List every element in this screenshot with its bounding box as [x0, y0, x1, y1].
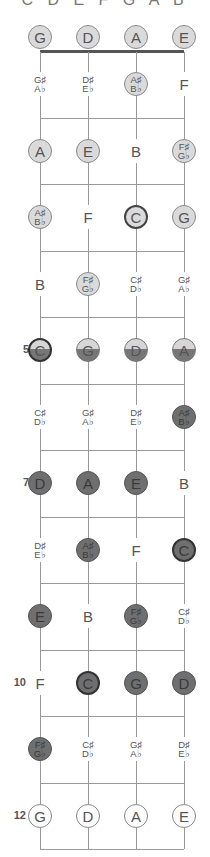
note-name: E: [179, 809, 189, 824]
note-flat-name: A♭: [34, 84, 45, 93]
note-marker: C: [76, 671, 100, 695]
note-name: D: [83, 809, 94, 824]
note-name: E: [179, 30, 189, 45]
note-marker: A♯B♭: [76, 538, 100, 562]
note-marker: G: [124, 671, 148, 695]
note-flat-name: E♭: [34, 550, 45, 559]
note-marker: E: [28, 604, 52, 628]
note-marker: F: [124, 538, 148, 562]
note-flat-name: G♭: [82, 284, 94, 293]
note-flat-name: D♭: [34, 417, 46, 426]
note-marker: F♯G♭: [28, 737, 52, 761]
note-marker: D♯E♭: [76, 72, 100, 96]
note-name: A: [179, 343, 189, 358]
note-marker: C♯D♭: [28, 405, 52, 429]
note-name: B: [131, 144, 141, 159]
note-flat-name: E♭: [130, 417, 141, 426]
note-flat-name: D♭: [130, 284, 142, 293]
note-marker: D: [124, 338, 148, 362]
note-marker: C: [172, 538, 196, 562]
fret-line: [40, 583, 184, 584]
note-name: E: [35, 609, 45, 624]
note-marker: B: [124, 139, 148, 163]
fret-number: 10: [8, 676, 26, 688]
note-marker: A♯B♭: [124, 72, 148, 96]
note-flat-name: B♭: [34, 217, 45, 226]
note-marker: E: [76, 139, 100, 163]
note-name: F: [83, 210, 92, 225]
note-name: F: [131, 543, 140, 558]
note-name: B: [83, 609, 93, 624]
note-marker: D: [28, 471, 52, 495]
note-flat-name: D♭: [178, 616, 190, 625]
note-marker: G♯A♭: [28, 72, 52, 96]
fret-line: [40, 317, 184, 318]
note-name: G: [82, 343, 94, 358]
note-name: E: [83, 144, 93, 159]
nut: [40, 50, 184, 53]
fretboard-diagram: C D E F G A B 571012GDAEG♯A♭D♯E♭A♯B♭FAEB…: [0, 0, 210, 857]
note-name: C: [83, 676, 94, 691]
note-name: D: [83, 30, 94, 45]
note-marker: A♯B♭: [28, 205, 52, 229]
note-marker: A: [124, 25, 148, 49]
fret-line: [40, 783, 184, 784]
fret-line: [40, 849, 184, 850]
note-name: C: [131, 210, 142, 225]
note-marker: E: [172, 25, 196, 49]
note-name: F: [35, 676, 44, 691]
note-marker: C♯D♭: [76, 737, 100, 761]
fret-line: [40, 251, 184, 252]
note-marker: A♯B♭: [172, 405, 196, 429]
note-flat-name: A♭: [178, 284, 189, 293]
fret-number: 7: [13, 476, 29, 488]
note-marker: A: [172, 338, 196, 362]
note-marker: A: [124, 804, 148, 828]
note-marker: F♯G♭: [172, 139, 196, 163]
note-marker: G: [28, 804, 52, 828]
note-marker: C: [124, 205, 148, 229]
note-name: B: [179, 476, 189, 491]
note-name: C: [179, 543, 190, 558]
note-flat-name: G♭: [130, 616, 142, 625]
note-marker: F♯G♭: [124, 604, 148, 628]
fret-line: [40, 650, 184, 651]
fret-line: [40, 716, 184, 717]
note-marker: G♯A♭: [76, 405, 100, 429]
note-marker: G♯A♭: [124, 737, 148, 761]
fret-line: [40, 450, 184, 451]
note-marker: D♯E♭: [28, 538, 52, 562]
note-marker: F: [76, 205, 100, 229]
note-flat-name: E♭: [178, 749, 189, 758]
note-name: A: [131, 30, 141, 45]
note-marker: G: [76, 338, 100, 362]
note-marker: G: [172, 205, 196, 229]
note-flat-name: G♭: [178, 151, 190, 160]
note-name: A: [35, 144, 45, 159]
note-name: D: [179, 676, 190, 691]
note-marker: D♯E♭: [172, 737, 196, 761]
note-flat-name: B♭: [82, 550, 93, 559]
note-marker: A: [28, 139, 52, 163]
fret-number: 12: [8, 809, 26, 821]
scale-header: C D E F G A B: [0, 0, 210, 9]
note-flat-name: B♭: [130, 84, 141, 93]
note-marker: D: [76, 25, 100, 49]
fret-line: [40, 184, 184, 185]
note-marker: F: [28, 671, 52, 695]
note-flat-name: A♭: [130, 749, 141, 758]
note-name: B: [35, 277, 45, 292]
note-marker: C: [28, 338, 52, 362]
fret-line: [40, 118, 184, 119]
note-name: C: [35, 343, 46, 358]
note-name: E: [131, 476, 141, 491]
fret-number: 5: [13, 343, 29, 355]
note-marker: F♯G♭: [76, 272, 100, 296]
note-marker: F: [172, 72, 196, 96]
note-name: G: [34, 809, 46, 824]
note-flat-name: E♭: [82, 84, 93, 93]
note-flat-name: D♭: [82, 749, 94, 758]
note-name: D: [131, 343, 142, 358]
note-marker: D: [172, 671, 196, 695]
note-marker: A: [76, 471, 100, 495]
